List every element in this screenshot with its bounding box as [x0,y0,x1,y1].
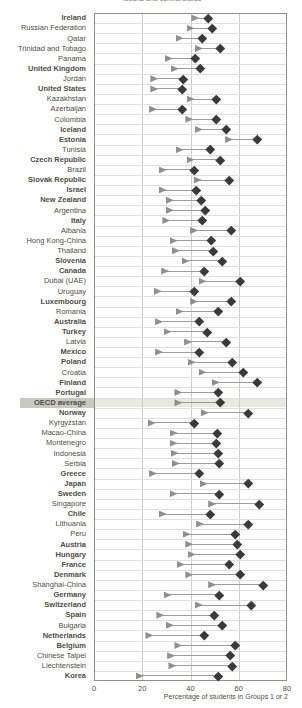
row-separator [95,479,286,480]
row-separator [95,104,286,105]
row-separator [95,276,286,277]
row-separator [95,357,286,358]
x-axis-label: Percentage of students in Groups 1 or 2 [60,693,288,700]
country-label: Korea [0,671,90,681]
row-separator [95,226,286,227]
country-label: Bulgaria [0,620,90,630]
row-separator [95,53,286,54]
country-label: Slovenia [0,256,90,266]
row-separator [95,630,286,631]
country-label: Romania [0,307,90,317]
connector-line [192,554,240,555]
connector-line [175,453,218,454]
row-separator [95,489,286,490]
row-separator [95,33,286,34]
country-label: Chile [0,509,90,519]
country-label: Singapore [0,499,90,509]
connector-line [152,422,194,423]
connector-line [200,524,248,525]
country-label: Croatia [0,367,90,377]
x-tick-label: 60 [227,684,251,693]
country-label: Tunisia [0,145,90,155]
row-separator [95,124,286,125]
connector-line [180,311,219,312]
connector-line [216,382,257,383]
country-label: Sweden [0,489,90,499]
connector-line [153,473,199,474]
connector-line [168,594,220,595]
row-separator [95,327,286,328]
connector-line [205,412,248,413]
connector-line [174,433,217,434]
row-separator [95,438,286,439]
country-label: OECD average [0,398,90,408]
connector-line [140,675,218,676]
row-separator [95,539,286,540]
country-label: France [0,560,90,570]
x-tick-label: 80 [275,684,299,693]
x-tick-label: 40 [179,684,203,693]
connector-line [176,463,219,464]
row-separator [95,458,286,459]
connector-line [189,574,240,575]
row-separator [95,74,286,75]
country-label: New Zealand [0,195,90,205]
country-label: Canada [0,266,90,276]
connector-line [204,483,249,484]
row-separator [95,155,286,156]
country-label: Hong Kong-China [0,236,90,246]
connector-line [178,402,220,403]
country-label: Turkey [0,327,90,337]
row-separator [95,43,286,44]
country-label: Argentina [0,205,90,215]
row-separator [95,307,286,308]
country-label: Slovak Republic [0,175,90,185]
connector-line [174,493,220,494]
row-separator [95,509,286,510]
country-label: United States [0,84,90,94]
row-separator [95,286,286,287]
row-separator [95,620,286,621]
row-separator [95,468,286,469]
country-label: Belgium [0,641,90,651]
row-separator [95,185,286,186]
country-label: Switzerland [0,600,90,610]
connector-line [172,665,232,666]
x-tick-label: 0 [82,684,106,693]
row-separator [95,519,286,520]
row-separator [95,570,286,571]
country-label: Kyrgyzstan [0,418,90,428]
country-label: Australia [0,317,90,327]
connector-line [178,392,218,393]
country-label: Qatar [0,33,90,43]
country-label: Germany [0,590,90,600]
connector-line [187,534,235,535]
dumbbell-chart: IrelandRussian FederationQatarTrinidad a… [0,0,302,708]
country-label: Azerbaijan [0,104,90,114]
row-separator [95,580,286,581]
country-label: Chinese Taipei [0,651,90,661]
row-separator [95,651,286,652]
country-label: Peru [0,529,90,539]
connector-line [174,240,211,241]
connector-line [178,645,235,646]
country-label: Macao-China [0,428,90,438]
row-separator [95,84,286,85]
row-separator [95,94,286,95]
row-separator [95,246,286,247]
country-label: Iceland [0,124,90,134]
row-separator [95,296,286,297]
connector-line [212,503,259,504]
country-label: Estonia [0,134,90,144]
row-separator [95,165,286,166]
row-separator [95,641,286,642]
row-separator [95,448,286,449]
country-label: Serbia [0,458,90,468]
country-label: Ireland [0,13,90,23]
country-label: Indonesia [0,448,90,458]
row-separator [95,215,286,216]
country-label: Spain [0,610,90,620]
row-separator [95,408,286,409]
country-label: Jordan [0,74,90,84]
row-separator [95,428,286,429]
